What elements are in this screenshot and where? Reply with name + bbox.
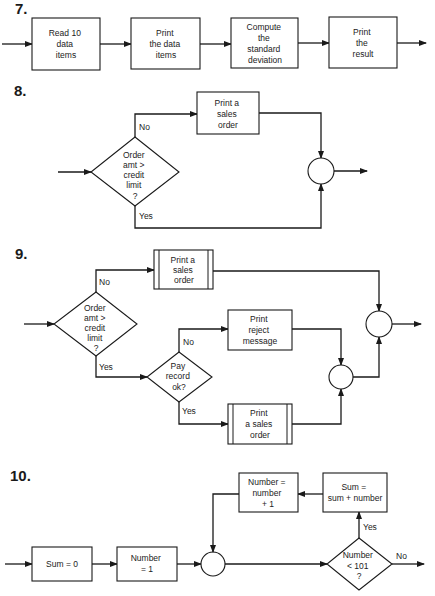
diagram-number: 9. — [15, 245, 28, 262]
diagram-9: 9. Order amt > credit limit ? No Print a… — [15, 245, 421, 444]
no-label: No — [183, 337, 194, 347]
no-label: No — [396, 551, 407, 561]
diagram-10: 10. Sum = 0 Number = 1 Number < 101 ? No… — [5, 467, 424, 590]
diagram-number: 7. — [15, 0, 28, 17]
loop-back-line — [213, 494, 239, 552]
merge-line — [213, 271, 379, 311]
flowchart-canvas: 7. Read 10 data items Print the data ite… — [0, 0, 435, 596]
no-label: No — [99, 277, 110, 287]
connector-circle-outer — [366, 311, 392, 337]
yes-label: Yes — [99, 362, 113, 372]
diagram-number: 8. — [14, 82, 27, 99]
diagram-7: 7. Read 10 data items Print the data ite… — [2, 0, 426, 70]
no-label: No — [139, 122, 150, 132]
process-label-print-order: Print a sales order — [215, 98, 242, 130]
yes-branch-line — [135, 184, 321, 228]
yes-label: Yes — [182, 406, 196, 416]
merge-line — [259, 113, 321, 158]
connector-circle-inner — [329, 365, 353, 389]
process-label-print-order: Print a sales order — [171, 255, 198, 285]
merge-line — [353, 337, 379, 377]
connector-circle — [308, 158, 334, 184]
process-label-sum-init: Sum = 0 — [46, 559, 78, 569]
diagram-number: 10. — [10, 467, 31, 484]
connector-circle — [201, 552, 225, 576]
process-label-compute: Compute the standard deviation — [247, 22, 284, 65]
merge-line — [292, 389, 341, 424]
yes-label: Yes — [139, 211, 153, 221]
merge-line — [292, 329, 341, 365]
diagram-8: 8. Order amt > credit limit ? No Print a… — [14, 82, 367, 228]
yes-label: Yes — [363, 522, 377, 532]
